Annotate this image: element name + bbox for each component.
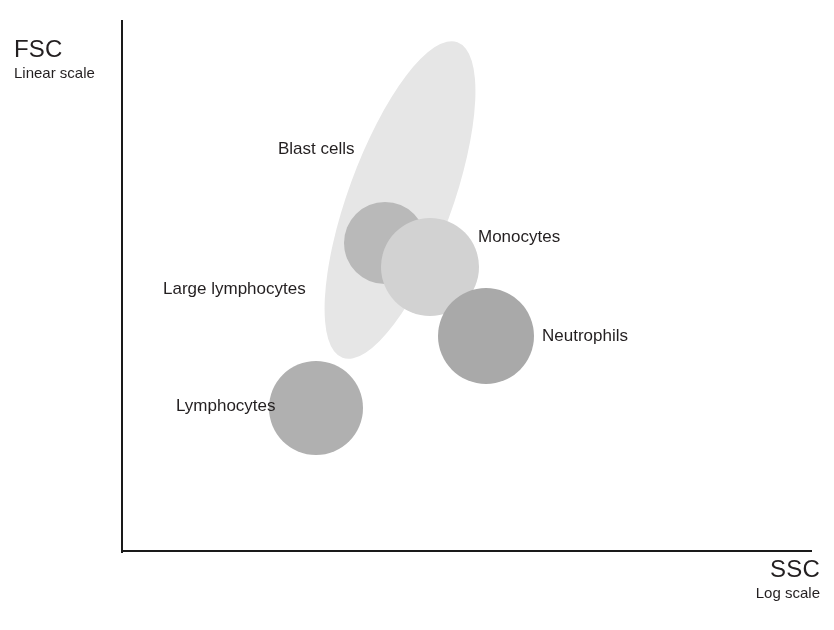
y-axis-title-scale: Linear scale [14,65,95,82]
x-axis-title-scale: Log scale [756,585,820,602]
population-label-large-lymphocytes: Large lymphocytes [163,280,306,297]
y-axis-title-main: FSC [14,36,95,63]
plot-area: Blast cells Large lymphocytes Monocytes … [0,0,834,630]
population-label-blast-cells: Blast cells [278,140,355,157]
population-shapes [0,0,834,630]
x-axis-line [121,550,812,552]
population-lymphocytes [269,361,363,455]
x-axis-title-main: SSC [756,556,820,583]
x-axis-title: SSC Log scale [756,556,820,602]
population-label-neutrophils: Neutrophils [542,327,628,344]
population-label-lymphocytes: Lymphocytes [176,397,276,414]
y-axis-line [121,20,123,553]
population-neutrophils [438,288,534,384]
y-axis-title: FSC Linear scale [14,36,95,82]
population-label-monocytes: Monocytes [478,228,560,245]
fsc-ssc-scatter-figure: Blast cells Large lymphocytes Monocytes … [0,0,834,630]
